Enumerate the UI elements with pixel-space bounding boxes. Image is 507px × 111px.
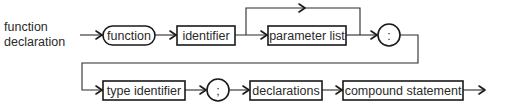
- node-identifier: identifier: [177, 26, 235, 45]
- node-semicolon: ;: [207, 79, 229, 101]
- node-type-identifier: type identifier: [103, 81, 185, 100]
- svg-text:identifier: identifier: [182, 29, 229, 43]
- node-compound-statement: compound statement: [343, 81, 463, 100]
- syntax-diagram: function declaration function identifier…: [0, 0, 507, 111]
- diagram-title-line2: declaration: [4, 35, 65, 49]
- diagram-title-line1: function: [4, 20, 48, 34]
- svg-text:;: ;: [216, 84, 219, 98]
- svg-text:parameter list: parameter list: [269, 29, 345, 43]
- svg-text:function: function: [107, 29, 151, 43]
- row1-connectors: [80, 8, 418, 90]
- node-declarations: declarations: [250, 81, 322, 100]
- svg-text::: :: [387, 29, 390, 43]
- svg-text:declarations: declarations: [252, 84, 319, 98]
- node-function: function: [103, 26, 155, 45]
- svg-text:type identifier: type identifier: [107, 84, 181, 98]
- node-parameter-list: parameter list: [268, 26, 346, 45]
- node-colon: :: [378, 24, 400, 46]
- svg-text:compound statement: compound statement: [345, 84, 462, 98]
